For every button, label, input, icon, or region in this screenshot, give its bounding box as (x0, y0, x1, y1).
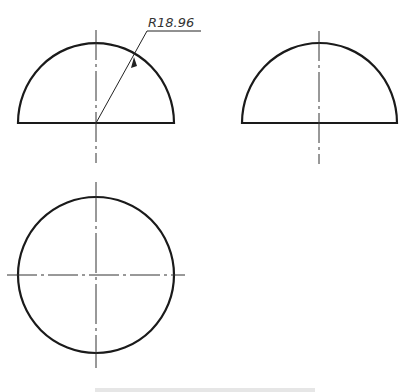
side-view (242, 31, 397, 164)
watermark-strip (95, 388, 315, 392)
radius-label: R18.96 (148, 15, 194, 30)
front-view (18, 30, 174, 163)
drawing-canvas: R18.96 (0, 0, 407, 392)
leader-line (96, 31, 147, 123)
top-view (7, 182, 185, 368)
radius-dimension: R18.96 (96, 15, 201, 123)
